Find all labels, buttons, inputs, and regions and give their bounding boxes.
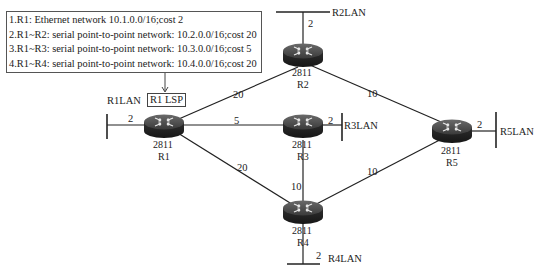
lan-cost-r2: 2 xyxy=(308,18,313,30)
router-name-r2: R2 xyxy=(297,79,309,91)
link-r2-r5 xyxy=(303,62,455,128)
lan-cost-r3: 2 xyxy=(328,115,333,127)
link-cost-r2-r5: 10 xyxy=(367,88,378,100)
lan-label-r4: R4LAN xyxy=(328,253,362,265)
link-cost-r1-r3: 5 xyxy=(234,115,239,127)
lan-label-r2: R2LAN xyxy=(332,7,366,19)
router-model-r1: 2811 xyxy=(153,139,173,151)
router-model-r5: 2811 xyxy=(441,145,461,157)
lsp-entry: 2.R1~R2: serial point-to-point network: … xyxy=(9,28,259,43)
router-icon xyxy=(432,120,472,144)
lan-label-r1: R1LAN xyxy=(107,95,141,107)
router-icon xyxy=(144,115,184,139)
lsp-entry: 3.R1~R3: serial point-to-point network: … xyxy=(9,42,259,57)
router-icon xyxy=(283,201,323,225)
link-cost-r3-r4: 10 xyxy=(291,181,302,193)
router-name-r5: R5 xyxy=(446,157,458,169)
lan-label-r3: R3LAN xyxy=(344,120,378,132)
lan-cost-r4: 2 xyxy=(316,250,321,262)
lan-cost-r1: 2 xyxy=(128,113,133,125)
link-r4-r5 xyxy=(303,132,455,211)
link-cost-r1-r2: 20 xyxy=(233,89,244,101)
link-cost-r4-r5: 10 xyxy=(367,166,378,178)
lan-label-r5: R5LAN xyxy=(500,126,534,138)
router-model-r3: 2811 xyxy=(292,139,312,151)
r1-lsp-label: R1 LSP xyxy=(147,93,186,107)
router-icon xyxy=(283,44,323,68)
lsp-entry: 4.R1~R4: serial point-to-point network: … xyxy=(9,57,259,72)
router-model-r2: 2811 xyxy=(292,67,312,79)
lsp-entry: 1.R1: Ethernet network 10.1.0.0/16;cost … xyxy=(9,13,259,28)
r1-lsp-table: 1.R1: Ethernet network 10.1.0.0/16;cost … xyxy=(6,11,262,73)
link-r1-r4 xyxy=(165,125,303,211)
lan-cost-r5: 2 xyxy=(477,119,482,131)
router-model-r4: 2811 xyxy=(292,225,312,237)
router-name-r1: R1 xyxy=(158,151,170,163)
router-icon xyxy=(283,115,323,139)
link-cost-r1-r4: 20 xyxy=(237,162,248,174)
router-name-r3: R3 xyxy=(297,151,309,163)
router-name-r4: R4 xyxy=(297,237,309,249)
